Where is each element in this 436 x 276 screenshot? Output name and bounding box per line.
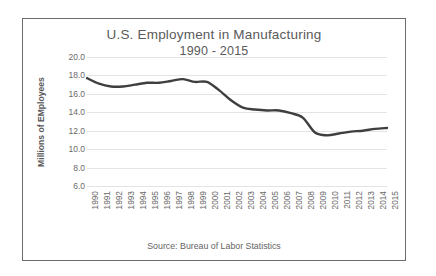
- x-tick-label: 2009: [318, 191, 328, 209]
- y-tick-label: 10.0: [68, 144, 85, 154]
- plot-area: 20.018.016.014.012.010.08.06.0: [87, 57, 387, 186]
- x-tick-label: 2001: [222, 191, 232, 209]
- y-tick-label: 8.0: [73, 163, 85, 173]
- x-tick-label: 1993: [126, 191, 136, 209]
- x-tick-label: 2015: [390, 191, 400, 209]
- x-tick-label: 1991: [102, 191, 112, 209]
- y-tick-label: 12.0: [68, 126, 85, 136]
- chart-title: U.S. Employment in Manufacturing: [23, 27, 405, 42]
- x-axis-ticks: 1990199119921993199419951996199719981999…: [87, 191, 387, 235]
- x-tick-label: 1990: [90, 191, 100, 209]
- x-tick-label: 2007: [294, 191, 304, 209]
- x-tick-label: 1999: [198, 191, 208, 209]
- x-tick-label: 2013: [366, 191, 376, 209]
- x-tick-label: 2000: [210, 191, 220, 209]
- x-tick-label: 1994: [138, 191, 148, 209]
- x-tick-label: 1995: [150, 191, 160, 209]
- x-tick-label: 2008: [306, 191, 316, 209]
- x-tick-label: 2011: [342, 191, 352, 209]
- series-lines: [87, 57, 387, 186]
- y-tick-label: 20.0: [68, 52, 85, 62]
- x-tick-label: 2010: [330, 191, 340, 209]
- source-note: Source: Bureau of Labor Statistics: [23, 241, 405, 251]
- gridline: [87, 186, 387, 187]
- y-tick-label: 18.0: [68, 70, 85, 80]
- y-tick-label: 14.0: [68, 107, 85, 117]
- x-tick-label: 2006: [282, 191, 292, 209]
- x-tick-label: 2005: [270, 191, 280, 209]
- y-axis-label: Millions of EMployees: [36, 77, 46, 167]
- x-tick-label: 1998: [186, 191, 196, 209]
- y-tick-label: 6.0: [73, 181, 85, 191]
- x-tick-label: 2004: [258, 191, 268, 209]
- x-tick-label: 2012: [354, 191, 364, 209]
- x-tick-label: 1996: [162, 191, 172, 209]
- series-line: [87, 78, 387, 135]
- x-tick-label: 2014: [378, 191, 388, 209]
- y-tick-label: 16.0: [68, 89, 85, 99]
- chart-figure: U.S. Employment in Manufacturing 1990 - …: [22, 18, 406, 261]
- x-tick-label: 2003: [246, 191, 256, 209]
- x-tick-label: 2002: [234, 191, 244, 209]
- x-tick-label: 1997: [174, 191, 184, 209]
- x-tick-label: 1992: [114, 191, 124, 209]
